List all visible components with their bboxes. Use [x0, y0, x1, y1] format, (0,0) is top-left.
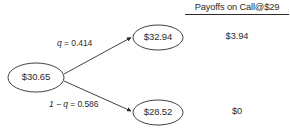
node-down-label: $28.52	[133, 106, 183, 117]
branch-up-probability-label: q = 0.414	[57, 38, 92, 48]
payoffs-column-header: Payoffs on Call@$29	[185, 2, 289, 15]
branch-up-probability-symbol: q	[57, 38, 62, 48]
payoff-down-value: $0	[189, 106, 285, 116]
binomial-tree-diagram: $30.65 $32.94 $28.52 q = 0.414 1 − q = 0…	[0, 0, 290, 135]
node-root-label: $30.65	[8, 71, 64, 82]
branch-down-probability-expression: = 0.586	[70, 99, 98, 109]
branch-down-probability-symbol: 1 − q	[49, 99, 68, 109]
branch-up-probability-expression: = 0.414	[64, 38, 92, 48]
node-up-label: $32.94	[133, 31, 183, 42]
payoff-up-value: $3.94	[189, 31, 285, 41]
branch-down-probability-label: 1 − q = 0.586	[49, 99, 98, 109]
